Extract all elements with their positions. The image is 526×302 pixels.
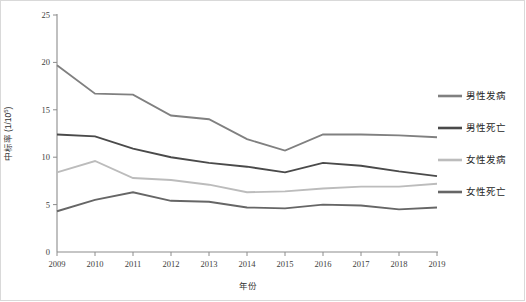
legend: 男性发病男性死亡女性发病女性死亡 bbox=[438, 90, 506, 197]
x-tick-label: 2019 bbox=[429, 259, 446, 269]
y-tick-label: 5 bbox=[46, 200, 50, 210]
x-tick-label: 2017 bbox=[353, 259, 370, 269]
x-tick-label: 2011 bbox=[125, 259, 142, 269]
axes bbox=[57, 14, 438, 252]
y-tick-label: 20 bbox=[42, 57, 51, 67]
series-lines bbox=[57, 65, 437, 211]
x-tick-label: 2009 bbox=[49, 259, 66, 269]
x-tick-label: 2012 bbox=[163, 259, 180, 269]
line-chart: 0510152025 20092010201120122013201420152… bbox=[0, 0, 526, 302]
y-tick-label: 25 bbox=[42, 10, 51, 20]
y-axis-title: 中标率 (1/105) bbox=[3, 106, 13, 161]
y-axis-title-tail: ) bbox=[3, 106, 13, 109]
x-tick-label: 2016 bbox=[315, 259, 332, 269]
y-tick-label: 15 bbox=[42, 105, 51, 115]
y-axis-title-main: 中标率 (1/10 bbox=[3, 112, 13, 161]
y-tick-label: 0 bbox=[46, 247, 50, 257]
x-tick-label: 2014 bbox=[239, 259, 257, 269]
legend-label-男性死亡[interactable]: 男性死亡 bbox=[466, 122, 506, 133]
x-axis-title: 年份 bbox=[239, 281, 257, 291]
series-line-女性发病 bbox=[57, 161, 437, 192]
x-tick-label: 2015 bbox=[277, 259, 294, 269]
x-tick-label: 2018 bbox=[391, 259, 408, 269]
series-line-男性发病 bbox=[57, 65, 437, 150]
chart-canvas: 0510152025 20092010201120122013201420152… bbox=[0, 0, 526, 302]
y-tick-label: 10 bbox=[42, 152, 51, 162]
legend-label-女性死亡[interactable]: 女性死亡 bbox=[466, 186, 506, 197]
x-tick-label: 2013 bbox=[201, 259, 218, 269]
y-axis-ticks: 0510152025 bbox=[42, 10, 58, 257]
series-line-女性死亡 bbox=[57, 192, 437, 211]
x-tick-label: 2010 bbox=[87, 259, 104, 269]
legend-label-女性发病[interactable]: 女性发病 bbox=[466, 154, 506, 165]
legend-label-男性发病[interactable]: 男性发病 bbox=[466, 90, 506, 101]
x-axis-ticks: 2009201020112012201320142015201620172018… bbox=[49, 252, 446, 269]
